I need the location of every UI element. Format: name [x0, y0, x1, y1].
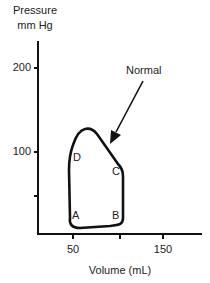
y-tick-label-100: 100: [7, 145, 31, 157]
y-tick-label-200: 200: [7, 61, 31, 73]
x-tick-label-50: 50: [58, 243, 88, 255]
x-axis-label: Volume (mL): [60, 264, 180, 276]
chart-canvas: [0, 0, 210, 283]
point-label-d: D: [73, 151, 81, 163]
arrow-head-icon: [110, 130, 121, 144]
point-label-a: A: [72, 209, 79, 221]
annotation-normal: Normal: [126, 64, 161, 76]
point-label-b: B: [112, 209, 119, 221]
point-label-c: C: [112, 165, 120, 177]
y-axis-label-line1: Pressure: [4, 3, 66, 18]
y-axis-label: Pressure mm Hg: [4, 3, 66, 33]
annotation-arrow-line: [116, 81, 143, 132]
x-tick-label-150: 150: [148, 243, 178, 255]
y-axis-label-line2: mm Hg: [4, 18, 66, 33]
